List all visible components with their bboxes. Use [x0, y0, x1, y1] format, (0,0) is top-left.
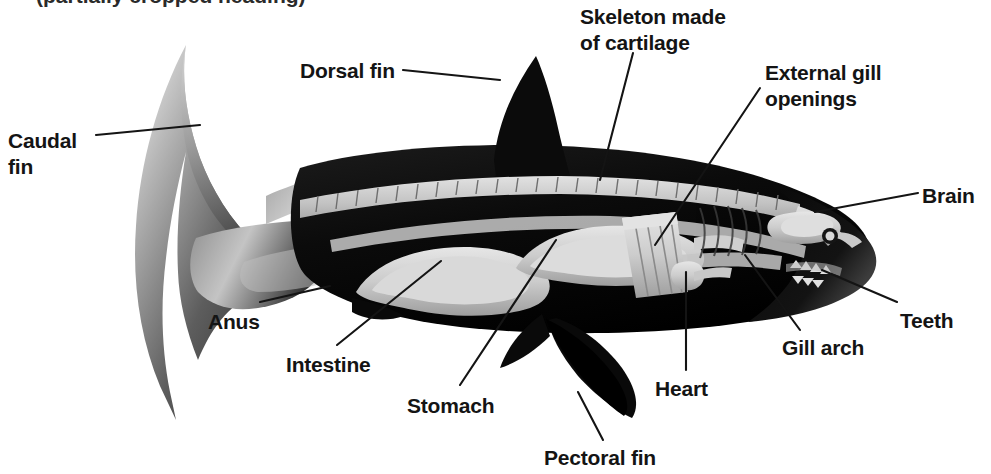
label-teeth: Teeth [900, 308, 953, 333]
leader-brain [815, 193, 918, 212]
label-gill-arch: Gill arch [782, 335, 864, 360]
label-heart: Heart [655, 376, 708, 401]
label-skeleton-cartilage: Skeleton made of cartilage [580, 4, 726, 56]
eye-shape [822, 228, 838, 244]
label-stomach: Stomach [407, 393, 494, 418]
label-caudal-fin: Caudal fin [8, 128, 77, 180]
label-brain: Brain [922, 183, 975, 208]
label-anus: Anus [208, 309, 260, 334]
label-dorsal-fin: Dorsal fin [300, 58, 395, 83]
leader-pectoral-fin [578, 392, 603, 440]
label-pectoral-fin: Pectoral fin [544, 445, 656, 470]
label-intestine: Intestine [286, 352, 371, 377]
leader-dorsal-fin [403, 70, 500, 80]
shark-anatomy-diagram: (partially cropped heading) [0, 0, 991, 474]
label-external-gill-openings: External gill openings [765, 60, 881, 112]
